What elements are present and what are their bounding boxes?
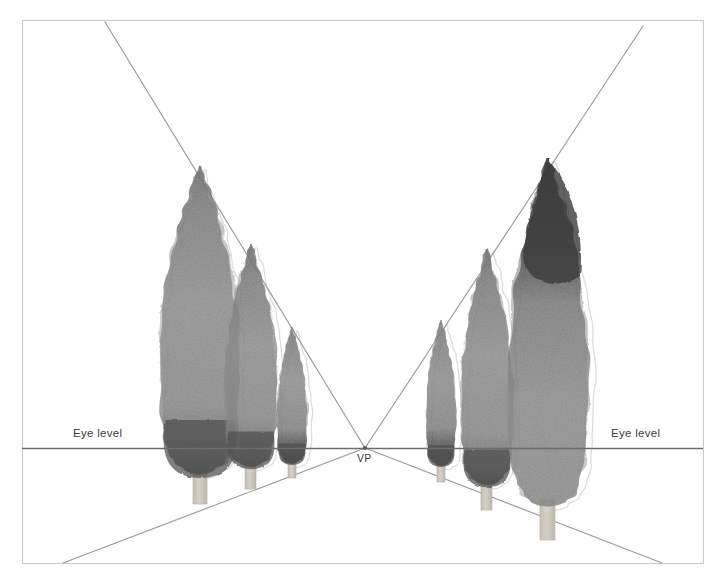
drawing-artwork (0, 0, 725, 581)
vanishing-point-marker (363, 446, 367, 450)
drawing-border (23, 21, 704, 564)
tree-left-2-dark-base (227, 432, 274, 470)
eye-level-label-left: Eye level (73, 427, 122, 439)
tree-right-2 (460, 249, 515, 510)
tree-left-3-dark-base (278, 443, 305, 465)
vanishing-point-label: VP (357, 452, 372, 464)
tree-right-2-dark-base (463, 450, 510, 488)
tree-right-2-foliage-edge (460, 249, 515, 485)
tree-right-3-dark-crown (523, 160, 581, 284)
eye-level-label-right: Eye level (611, 427, 660, 439)
perspective-drawing-canvas: Eye level Eye level VP (0, 0, 725, 581)
tree-left-1 (159, 166, 241, 504)
